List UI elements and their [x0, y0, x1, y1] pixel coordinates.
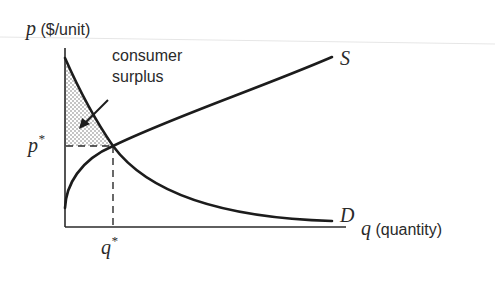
consumer-surplus-label-line1: consumer: [112, 47, 183, 64]
demand-curve-label: D: [339, 204, 355, 226]
equilibrium-price-label: p*: [26, 131, 45, 157]
supply-curve-label: S: [340, 47, 350, 69]
consumer-surplus-label-line2: surplus: [112, 68, 164, 85]
y-axis-label: p ($/unit): [24, 17, 90, 40]
supply-demand-diagram: p ($/unit) consumer surplus S D p* q* q …: [0, 0, 495, 283]
x-axis-label: q (quantity): [361, 217, 442, 240]
scan-artifact-line: [0, 37, 495, 44]
equilibrium-quantity-label: q*: [101, 233, 118, 259]
